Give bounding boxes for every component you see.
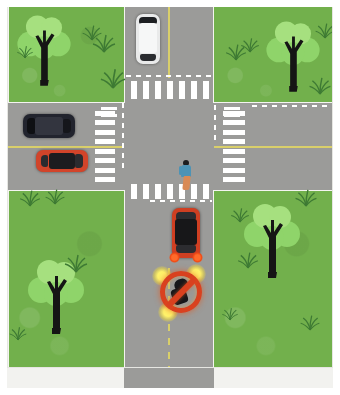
grass-quadrant-southeast	[213, 190, 333, 368]
stop-guide-south	[150, 200, 212, 202]
pedestrian-legs	[182, 176, 190, 190]
stop-guide-east	[252, 105, 336, 107]
crosswalk-stripe	[131, 184, 137, 199]
red-car-approaching-intersection[interactable]	[172, 208, 200, 258]
pedestrian[interactable]	[180, 160, 192, 190]
crosswalk-stripe	[223, 168, 245, 173]
red-car-westbound-lane[interactable]	[36, 150, 88, 172]
crosswalk-stripe	[191, 81, 197, 99]
crosswalk-north	[128, 81, 212, 99]
no-entry-sign[interactable]	[152, 262, 208, 324]
crosswalk-stripe	[203, 184, 209, 199]
crosswalk-stripe	[95, 149, 115, 154]
car-roof	[175, 219, 197, 245]
stop-guide-west	[122, 103, 124, 173]
road-scene	[0, 0, 340, 395]
rear-window	[63, 119, 71, 133]
crosswalk-stripe	[223, 177, 245, 182]
crosswalk-stripe	[143, 81, 149, 99]
rear-window	[41, 155, 48, 167]
crosswalk-stripe	[95, 177, 115, 182]
verge-mark	[101, 114, 117, 117]
white-car[interactable]	[136, 14, 160, 64]
crosswalk-stripe	[95, 120, 115, 125]
dark-navy-car[interactable]	[23, 114, 75, 138]
verge-mark	[101, 107, 117, 110]
crosswalk-stripe	[167, 184, 173, 199]
stop-guide-east-vertical	[214, 105, 216, 145]
crosswalk-south	[128, 184, 212, 199]
stop-guide-north	[126, 75, 212, 77]
crosswalk-stripe	[155, 184, 161, 199]
car-roof	[49, 153, 75, 169]
crosswalk-stripe	[203, 81, 209, 99]
grass-quadrant-southwest	[8, 190, 125, 368]
verge-mark	[224, 107, 240, 110]
rear-window	[176, 245, 196, 253]
crosswalk-stripe	[143, 184, 149, 199]
crosswalk-stripe	[155, 81, 161, 99]
grass-quadrant-northeast	[213, 6, 333, 103]
center-line-north	[168, 0, 170, 78]
crosswalk-stripe	[131, 81, 137, 99]
crosswalk-east	[223, 109, 245, 185]
crosswalk-stripe	[95, 158, 115, 163]
crosswalk-stripe	[95, 139, 115, 144]
windshield	[75, 154, 83, 168]
car-roof	[139, 23, 157, 53]
crosswalk-stripe	[223, 158, 245, 163]
rear-window	[140, 54, 156, 61]
crosswalk-west	[95, 109, 115, 185]
car-roof	[35, 117, 63, 135]
windshield	[27, 118, 35, 134]
verge-mark	[224, 114, 240, 117]
crosswalk-stripe	[223, 149, 245, 154]
crosswalk-stripe	[95, 130, 115, 135]
crosswalk-stripe	[223, 139, 245, 144]
crosswalk-stripe	[179, 81, 185, 99]
crosswalk-stripe	[167, 81, 173, 99]
grass-quadrant-northwest	[8, 6, 125, 103]
crosswalk-stripe	[223, 120, 245, 125]
crosswalk-stripe	[95, 168, 115, 173]
crosswalk-stripe	[223, 130, 245, 135]
